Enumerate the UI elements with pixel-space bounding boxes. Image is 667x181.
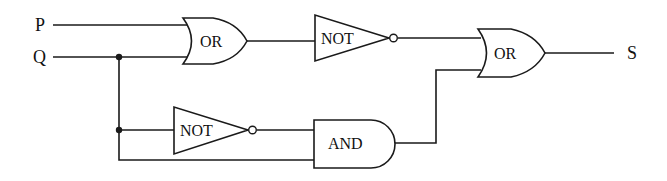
wire-and-to-or2 bbox=[395, 70, 481, 143]
or-gate-1: OR bbox=[183, 18, 247, 64]
not-gate-1: NOT bbox=[315, 15, 397, 61]
and-gate-label: AND bbox=[328, 135, 363, 152]
input-label-p: P bbox=[35, 15, 45, 35]
not-gate-2-label: NOT bbox=[180, 122, 213, 139]
junction-dot bbox=[116, 54, 122, 60]
or-gate-2: OR bbox=[478, 29, 545, 77]
and-gate: AND bbox=[314, 120, 395, 168]
output-label-s: S bbox=[627, 43, 637, 63]
not-gate-1-label: NOT bbox=[321, 30, 354, 47]
inversion-bubble bbox=[249, 126, 257, 134]
inversion-bubble bbox=[390, 34, 398, 42]
not-gate-2: NOT bbox=[174, 107, 256, 154]
or-gate-2-label: OR bbox=[494, 45, 517, 62]
input-label-q: Q bbox=[33, 47, 46, 67]
wire-q-branch bbox=[119, 57, 315, 160]
logic-circuit-diagram: P Q OR NOT NOT bbox=[0, 0, 667, 181]
junction-dot bbox=[116, 127, 122, 133]
or-gate-1-label: OR bbox=[200, 33, 223, 50]
